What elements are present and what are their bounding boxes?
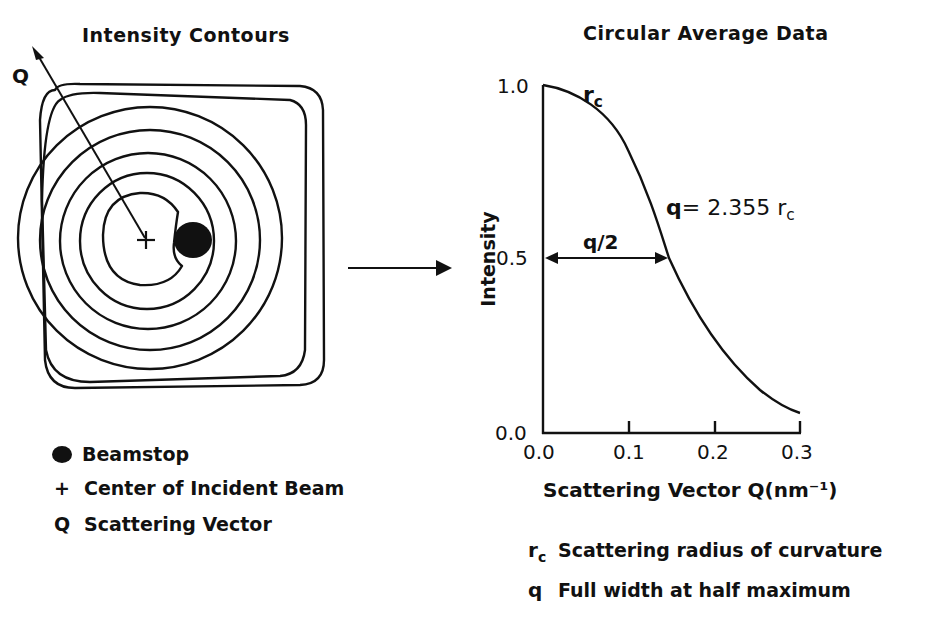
- q-symbol: Q: [54, 513, 72, 535]
- legend-fwhm: qFull width at half maximum: [528, 578, 851, 602]
- half-width-right-arrowhead-icon: [655, 252, 668, 264]
- y-tick-0.5: 0.5: [496, 246, 528, 270]
- curve-label-rc: rc: [583, 82, 603, 111]
- rc-symbol: rc: [528, 538, 558, 565]
- transition-arrowhead-icon: [436, 260, 452, 276]
- legend-scattering-vector: QScattering Vector: [54, 513, 272, 535]
- half-width-label: q/2: [583, 230, 619, 254]
- legend-beam-center: +Center of Incident Beam: [54, 477, 344, 499]
- q-fwhm-symbol: q: [528, 578, 558, 602]
- x-tick-label-0.0: 0.0: [523, 440, 555, 464]
- scattering-vector-arrow: [36, 52, 145, 238]
- legend-beamstop: Beamstop: [52, 443, 189, 465]
- legend-beamstop-label: Beamstop: [82, 443, 189, 465]
- x-axis-label: Scattering Vector Q(nm⁻¹): [543, 478, 837, 502]
- x-tick-label-0.3: 0.3: [781, 440, 813, 464]
- x-tick-label-0.2: 0.2: [697, 440, 729, 464]
- legend-rc: rcScattering radius of curvature: [528, 538, 882, 565]
- beamstop-legend-icon: [52, 446, 72, 463]
- x-tick-label-0.1: 0.1: [613, 440, 645, 464]
- beamstop-icon: [174, 222, 212, 258]
- beam-center-icon: [137, 231, 155, 249]
- legend-beam-center-label: Center of Incident Beam: [84, 477, 344, 499]
- plus-icon: +: [54, 477, 72, 499]
- fwhm-equation: q= 2.355 rc: [666, 195, 795, 224]
- y-axis-label: Intensity: [477, 211, 499, 306]
- chart-title: Circular Average Data: [583, 22, 829, 44]
- scattering-vector-arrowhead-icon: [32, 46, 44, 60]
- legend-fwhm-label: Full width at half maximum: [558, 579, 851, 601]
- intensity-curve: [543, 85, 800, 413]
- y-tick-1.0: 1.0: [497, 74, 529, 98]
- legend-rc-label: Scattering radius of curvature: [558, 539, 882, 561]
- legend-scattering-vector-label: Scattering Vector: [84, 513, 272, 535]
- half-width-left-arrowhead-icon: [545, 252, 558, 264]
